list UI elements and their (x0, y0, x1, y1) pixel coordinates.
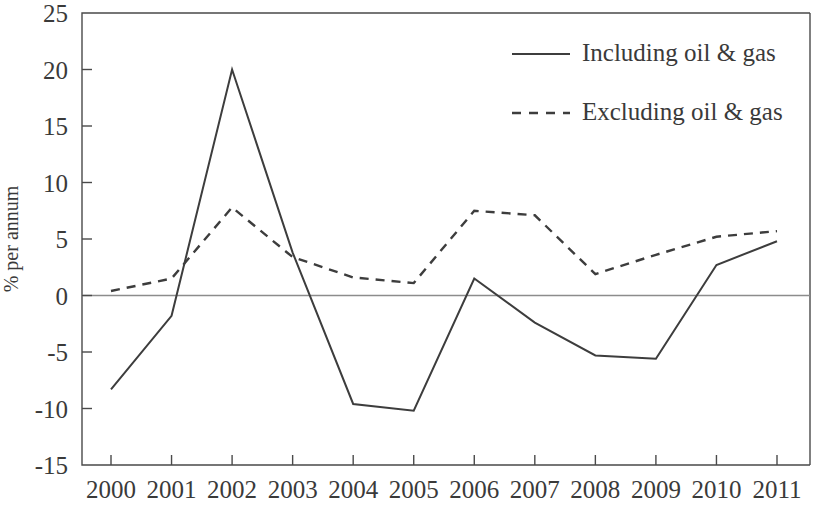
x-tick-label: 2004 (328, 476, 379, 503)
legend-label: Excluding oil & gas (582, 98, 783, 125)
legend-label: Including oil & gas (582, 39, 776, 66)
y-axis-title-text: % per annum (0, 185, 23, 292)
y-tick-label: -5 (47, 339, 68, 366)
x-tick-label: 2010 (691, 476, 741, 503)
series-line-2 (111, 207, 777, 291)
chart-legend: Including oil & gasExcluding oil & gas (512, 39, 783, 125)
y-tick-label: 10 (43, 170, 68, 197)
x-tick-label: 2005 (389, 476, 439, 503)
y-tick-label: 25 (43, 0, 68, 27)
x-tick-label: 2002 (207, 476, 257, 503)
y-axis-ticks: -15-10-50510152025 (35, 0, 92, 479)
y-tick-label: -10 (35, 396, 68, 423)
chart-container: -15-10-50510152025 200020012002200320042… (0, 0, 821, 511)
y-tick-label: -15 (35, 452, 68, 479)
x-tick-label: 2008 (570, 476, 620, 503)
x-tick-label: 2011 (752, 476, 801, 503)
x-tick-label: 2009 (631, 476, 681, 503)
y-axis-title: % per annum (0, 185, 23, 292)
x-tick-label: 2003 (268, 476, 318, 503)
x-tick-label: 2006 (449, 476, 499, 503)
y-tick-label: 15 (43, 113, 68, 140)
x-tick-label: 2001 (147, 476, 197, 503)
x-axis-ticks: 2000200120022003200420052006200720082009… (86, 455, 802, 503)
y-tick-label: 20 (43, 57, 68, 84)
y-tick-label: 0 (56, 283, 69, 310)
x-tick-label: 2000 (86, 476, 136, 503)
line-chart: -15-10-50510152025 200020012002200320042… (0, 0, 821, 511)
x-tick-label: 2007 (510, 476, 560, 503)
y-tick-label: 5 (56, 226, 69, 253)
